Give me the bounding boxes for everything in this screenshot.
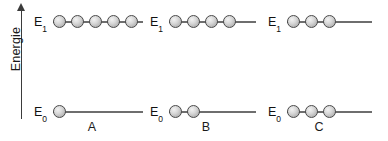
particle-icon	[107, 15, 120, 28]
particle-icon	[323, 105, 336, 118]
particle-icon	[53, 15, 66, 28]
level-a-e0: E0	[34, 102, 143, 122]
level-track	[287, 102, 372, 122]
particle-icon	[169, 15, 182, 28]
particle-icon	[305, 15, 318, 28]
level-label-e0: E0	[34, 102, 47, 122]
level-c-e1: E1	[268, 12, 372, 32]
group-label-c: C	[299, 120, 339, 134]
particle-icon	[223, 15, 236, 28]
particle-icon	[53, 105, 66, 118]
particle-icon	[169, 105, 182, 118]
level-label-e0: E0	[268, 102, 281, 122]
particle-icon	[287, 15, 300, 28]
particle-icon	[125, 15, 138, 28]
axis-label: Energie	[9, 9, 23, 89]
level-track	[287, 12, 372, 32]
level-b-e1: E1	[150, 12, 256, 32]
level-label-e1: E1	[150, 12, 163, 32]
particle-icon	[89, 15, 102, 28]
level-a-e1: E1	[34, 12, 143, 32]
particle-icon	[305, 105, 318, 118]
energy-level-diagram: Energie E1E0AE1E0BE1E0C	[0, 0, 388, 141]
level-label-e0: E0	[150, 102, 163, 122]
level-label-e1: E1	[34, 12, 47, 32]
level-track	[169, 12, 256, 32]
level-track	[53, 12, 143, 32]
particle-icon	[205, 15, 218, 28]
level-track	[169, 102, 256, 122]
level-b-e0: E0	[150, 102, 256, 122]
level-c-e0: E0	[268, 102, 372, 122]
level-line	[53, 111, 143, 112]
particle-icon	[323, 15, 336, 28]
group-label-b: B	[186, 120, 226, 134]
particle-icon	[187, 15, 200, 28]
level-line	[169, 111, 256, 112]
particle-icon	[287, 105, 300, 118]
particle-icon	[71, 15, 84, 28]
group-label-a: A	[72, 120, 112, 134]
level-label-e1: E1	[268, 12, 281, 32]
particle-icon	[187, 105, 200, 118]
level-track	[53, 102, 143, 122]
